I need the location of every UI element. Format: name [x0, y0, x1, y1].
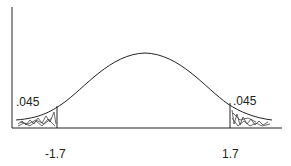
normal-curve-diagram — [0, 0, 291, 166]
right-tail-area-label: .045 — [233, 95, 256, 107]
left-critical-value-label: -1.7 — [45, 148, 66, 160]
right-tail-shade — [232, 110, 270, 126]
right-critical-value-label: 1.7 — [222, 148, 239, 160]
bell-curve — [16, 53, 272, 120]
left-tail-area-label: .045 — [16, 96, 39, 108]
